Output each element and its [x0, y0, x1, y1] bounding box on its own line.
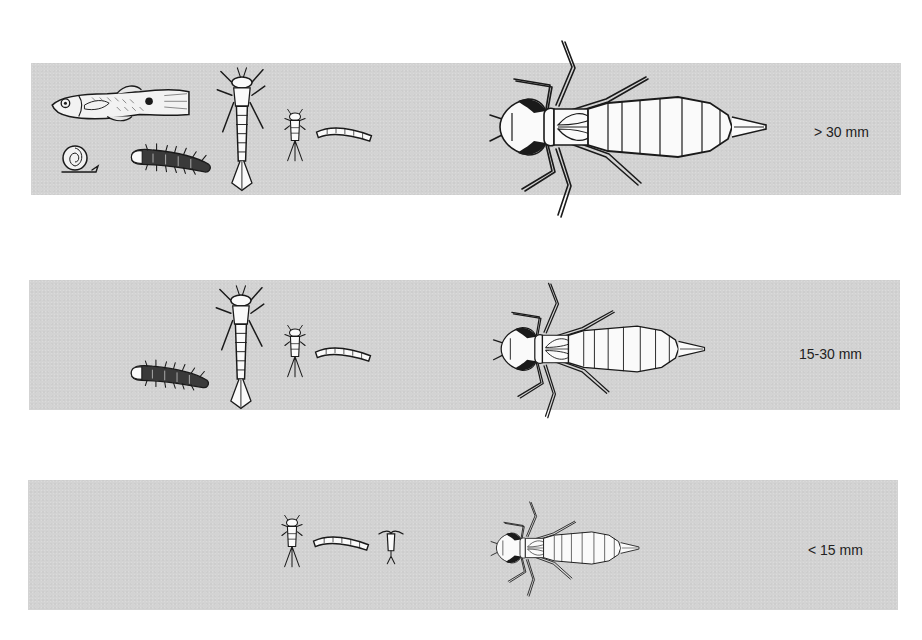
mayfly-larva-icon	[284, 322, 306, 380]
size-band-small	[28, 480, 898, 610]
chironomid-larva-icon	[312, 342, 374, 366]
snail-icon	[58, 142, 98, 176]
beetle-larva-icon	[126, 358, 214, 392]
dragonfly-larva-medium-icon	[492, 268, 706, 430]
dragonfly-larva-small-icon	[490, 486, 640, 610]
size-label-large: > 30 mm	[814, 124, 869, 140]
size-label-small: < 15 mm	[808, 542, 863, 558]
dragonfly-larva-large-icon	[488, 36, 768, 218]
cladoceran-icon	[377, 528, 405, 566]
chironomid-larva-icon	[310, 531, 372, 555]
mayfly-larva-icon	[284, 106, 306, 164]
mayfly-larva-icon	[281, 512, 303, 570]
damselfly-larva-icon	[209, 284, 271, 412]
size-label-medium: 15-30 mm	[799, 346, 862, 362]
damselfly-larva-icon	[210, 66, 272, 194]
fish-icon	[48, 88, 195, 126]
beetle-larva-icon	[126, 142, 216, 176]
chironomid-larva-icon	[313, 122, 375, 146]
